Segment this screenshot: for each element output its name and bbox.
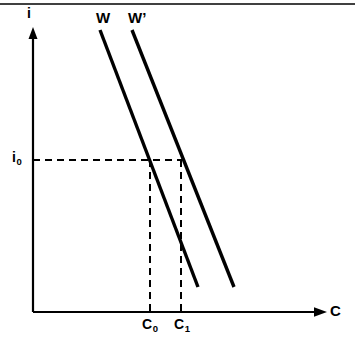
x-axis-arrowhead-icon (314, 307, 327, 317)
figure-container: W W’ i i0 C0 C1 C (0, 0, 355, 346)
curve-label-w: W (96, 10, 110, 25)
x-tick-label-c1: C1 (174, 317, 189, 331)
x-tick-label-c0: C0 (142, 317, 157, 331)
x-tick-label-c1-base: C (174, 316, 184, 332)
curve-label-w-prime: W’ (128, 10, 146, 25)
x-tick-label-c0-base: C (142, 316, 152, 332)
y-tick-label-i0-sub: 0 (16, 156, 21, 167)
y-axis-arrowhead-icon (29, 27, 38, 39)
y-axis-label: i (27, 6, 31, 20)
x-tick-label-c1-sub: 1 (185, 323, 190, 334)
diagram-canvas (0, 0, 355, 346)
x-tick-label-c0-sub: 0 (153, 323, 158, 334)
y-tick-label-i0: i0 (12, 150, 21, 164)
x-axis-label: C (330, 303, 341, 318)
